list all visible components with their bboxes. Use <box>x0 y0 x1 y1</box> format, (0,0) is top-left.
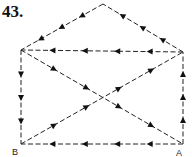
arrowhead-icon <box>114 141 120 147</box>
vertex-label-a: A <box>176 148 182 157</box>
edges-group <box>21 4 183 144</box>
vertex-label-b: B <box>12 147 18 157</box>
arrowhead-icon <box>49 47 55 53</box>
arrowhead-icon <box>59 23 66 29</box>
arrowhead-icon <box>147 49 153 55</box>
arrowhead-icon <box>18 72 24 78</box>
arrowhead-icon <box>83 84 90 90</box>
arrowhead-icon <box>180 94 186 100</box>
arrowhead-icon <box>147 141 153 147</box>
arrowhead-icon <box>49 141 55 147</box>
arrowhead-icon <box>180 117 186 123</box>
arrowhead-icon <box>160 38 167 44</box>
arrows-group <box>18 12 186 147</box>
arrowhead-icon <box>115 103 122 109</box>
arrowhead-icon <box>140 26 147 32</box>
arrowhead-icon <box>180 71 186 77</box>
arrowhead-icon <box>79 12 86 18</box>
arrowhead-icon <box>18 95 24 101</box>
edge-top_right-top_left <box>21 50 183 52</box>
arrowhead-icon <box>82 141 88 147</box>
arrowhead-icon <box>82 48 88 54</box>
envelope-diagram: 43. B A <box>0 0 192 157</box>
arrowhead-icon <box>147 122 154 128</box>
arrowhead-icon <box>50 65 57 71</box>
figure-number: 43. <box>2 2 23 21</box>
edge-top_left-A <box>21 50 183 144</box>
arrowhead-icon <box>114 48 120 54</box>
arrowhead-icon <box>18 119 24 125</box>
